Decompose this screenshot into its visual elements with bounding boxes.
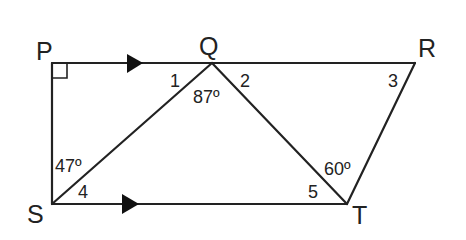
segment-rt	[347, 63, 415, 204]
segment-qt	[212, 63, 347, 204]
angle-label-5: 5	[308, 182, 318, 202]
vertex-label-q: Q	[199, 32, 218, 60]
segment-qs	[52, 63, 212, 204]
angle-label-2: 2	[240, 71, 250, 91]
geometry-figure: P Q R S T 1 2 3 4 5 87º 47º 60º	[0, 0, 466, 240]
vertex-label-r: R	[418, 34, 436, 62]
parallel-arrow-top	[127, 54, 143, 73]
angle-label-t-given: 60º	[324, 159, 351, 179]
vertex-label-s: S	[27, 200, 44, 228]
angle-label-q-given: 87º	[193, 87, 220, 107]
angle-label-3: 3	[388, 71, 398, 91]
vertex-label-t: T	[352, 201, 367, 229]
vertex-label-p: P	[36, 37, 53, 65]
angle-label-4: 4	[78, 182, 88, 202]
diagram-canvas: P Q R S T 1 2 3 4 5 87º 47º 60º	[0, 0, 466, 240]
parallel-arrow-bottom	[122, 194, 139, 214]
angle-label-s-given: 47º	[55, 156, 82, 176]
angle-label-1: 1	[170, 71, 180, 91]
right-angle-marker	[52, 63, 67, 78]
